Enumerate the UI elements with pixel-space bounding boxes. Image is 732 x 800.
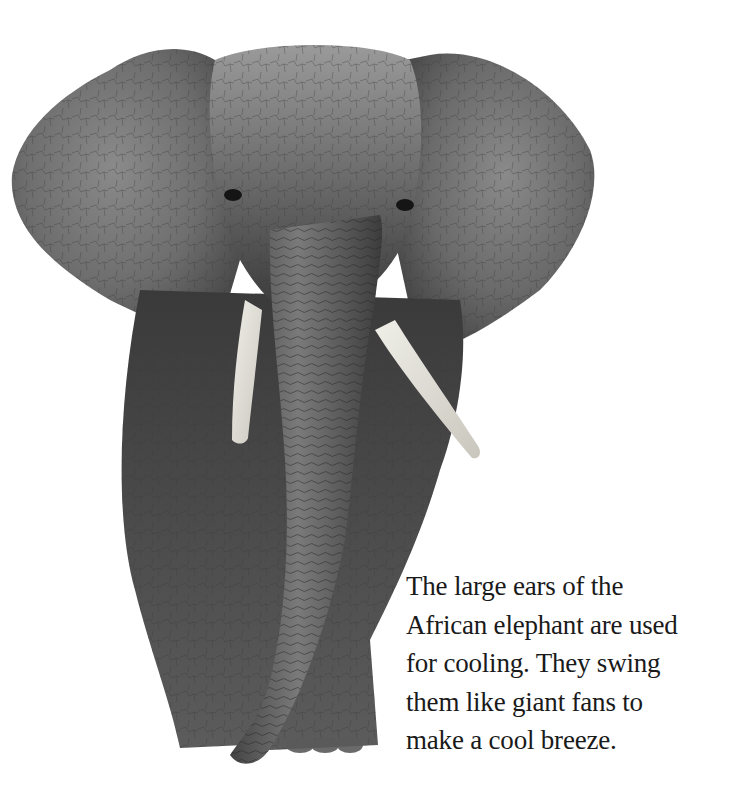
caption-line: them like giant fans to xyxy=(406,683,726,722)
caption-line: for cooling. They swing xyxy=(406,644,726,683)
caption-line: African elephant are used xyxy=(406,606,726,645)
caption-line: The large ears of the xyxy=(406,567,726,606)
caption-text: The large ears of the African elephant a… xyxy=(406,567,726,760)
caption-line: make a cool breeze. xyxy=(406,721,726,760)
left-eye xyxy=(224,189,242,201)
book-page: The large ears of the African elephant a… xyxy=(0,0,732,800)
right-eye xyxy=(396,199,414,211)
